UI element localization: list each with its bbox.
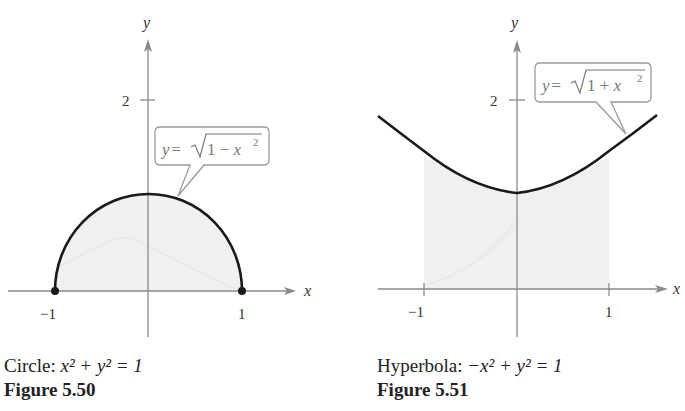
caption-equation: −x² + y² = 1 [467,355,562,376]
figure-label-5-51: Figure 5.51 [377,379,468,401]
x-tick-label-1: 1 [605,304,613,320]
svg-text:2: 2 [637,72,643,84]
caption-equation: x² + y² = 1 [60,355,142,376]
caption-prefix: Circle: [4,355,60,376]
caption-prefix: Hyperbola: [377,355,467,376]
equation-callout: y= 1 + x 2 [535,63,651,134]
svg-text:y=: y= [540,76,561,95]
y-axis-label: y [509,14,519,32]
y-tick-label-2: 2 [490,93,498,109]
svg-text:1 + x: 1 + x [587,76,622,95]
x-tick-label-neg1: −1 [408,304,424,320]
caption-fig-5-50: Circle: x² + y² = 1 [4,355,143,377]
x-axis-label: x [672,280,680,297]
figure-label-5-50: Figure 5.50 [4,379,95,401]
figure-5-51-plot: y x 2 −1 1 y= 1 + x 2 [0,0,685,340]
caption-fig-5-51: Hyperbola: −x² + y² = 1 [377,355,562,377]
